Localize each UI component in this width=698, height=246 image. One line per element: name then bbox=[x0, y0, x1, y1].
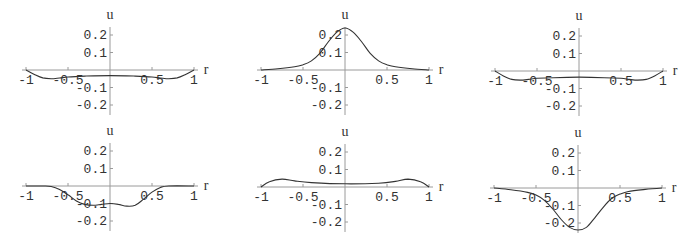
x-tick-label: 0.5 bbox=[140, 189, 163, 204]
x-axis-label: r bbox=[673, 63, 678, 78]
y-tick-label: 0.1 bbox=[84, 46, 108, 61]
x-tick-label: -1 bbox=[18, 73, 34, 88]
plots-canvas: -1-0.50.510.20.1-0.1-0.2ur-1-0.50.510.20… bbox=[0, 0, 698, 246]
x-axis-label: r bbox=[204, 178, 209, 193]
x-tick-label: 1 bbox=[190, 189, 198, 204]
y-tick-label: 0.2 bbox=[84, 28, 107, 43]
y-axis-label: u bbox=[107, 7, 114, 22]
x-axis-label: r bbox=[439, 179, 444, 194]
x-tick-label: 1 bbox=[659, 74, 667, 89]
plot-panel-6: -1-0.50.510.20.1-0.1-0.2ur bbox=[486, 125, 676, 233]
y-tick-label: 0.2 bbox=[553, 29, 576, 44]
y-tick-label: -0.1 bbox=[544, 199, 575, 214]
plot-panel-2: -1-0.50.510.20.1-0.1-0.2ur bbox=[253, 7, 443, 115]
plot-panel-5: -1-0.50.510.20.1-0.1-0.2ur bbox=[253, 124, 443, 232]
y-axis-label: u bbox=[107, 123, 114, 138]
plot-panel-1: -1-0.50.510.20.1-0.1-0.2ur bbox=[18, 7, 208, 115]
x-tick-label: 0.5 bbox=[609, 74, 632, 89]
y-tick-label: -0.2 bbox=[76, 98, 107, 113]
x-tick-label: 0.5 bbox=[375, 190, 398, 205]
y-axis-label: u bbox=[342, 7, 349, 22]
y-tick-label: -0.2 bbox=[76, 214, 107, 229]
figure-grid: -1-0.50.510.20.1-0.1-0.2ur-1-0.50.510.20… bbox=[0, 0, 698, 246]
x-tick-label: -1 bbox=[486, 191, 502, 206]
x-axis-label: r bbox=[439, 62, 444, 77]
x-tick-label: 0.5 bbox=[375, 73, 398, 88]
y-tick-label: -0.2 bbox=[311, 98, 342, 113]
y-tick-label: -0.1 bbox=[311, 81, 342, 96]
x-tick-label: -1 bbox=[253, 73, 269, 88]
y-tick-label: -0.1 bbox=[311, 198, 342, 213]
y-tick-label: -0.2 bbox=[311, 215, 342, 230]
y-tick-label: 0.1 bbox=[552, 164, 576, 179]
y-tick-label: 0.2 bbox=[319, 145, 342, 160]
y-axis-label: u bbox=[576, 8, 583, 23]
y-tick-label: 0.1 bbox=[319, 46, 343, 61]
x-tick-label: 1 bbox=[658, 191, 666, 206]
y-tick-label: -0.2 bbox=[545, 99, 576, 114]
x-tick-label: 0.5 bbox=[140, 73, 163, 88]
y-tick-label: -0.2 bbox=[544, 216, 575, 231]
x-tick-label: -1 bbox=[487, 74, 503, 89]
x-tick-label: -1 bbox=[253, 190, 269, 205]
x-tick-label: -1 bbox=[18, 189, 34, 204]
y-tick-label: -0.1 bbox=[76, 81, 107, 96]
y-tick-label: 0.1 bbox=[553, 47, 577, 62]
x-tick-label: 1 bbox=[425, 73, 433, 88]
y-tick-label: 0.1 bbox=[319, 163, 343, 178]
plot-panel-3: -1-0.50.510.20.1-0.1-0.2ur bbox=[487, 8, 677, 116]
y-axis-label: u bbox=[575, 125, 582, 140]
x-axis-label: r bbox=[204, 62, 209, 77]
y-tick-label: 0.1 bbox=[84, 162, 108, 177]
y-axis-label: u bbox=[342, 124, 349, 139]
x-axis-label: r bbox=[672, 180, 677, 195]
y-tick-label: 0.2 bbox=[552, 146, 575, 161]
x-tick-label: 1 bbox=[190, 73, 198, 88]
x-tick-label: 1 bbox=[425, 190, 433, 205]
plot-panel-4: -1-0.50.510.20.1-0.1-0.2ur bbox=[18, 123, 208, 231]
y-tick-label: 0.2 bbox=[84, 144, 107, 159]
y-tick-label: -0.1 bbox=[545, 82, 576, 97]
